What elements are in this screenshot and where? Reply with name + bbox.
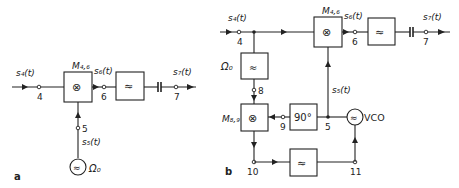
- b-node-4-label: 4: [237, 37, 243, 47]
- b-bandpass-symbol: ≈: [249, 62, 257, 73]
- b-node-7: [424, 30, 428, 34]
- b-mixer1-symbol: ⊗: [322, 26, 331, 39]
- a-node-4-label: 4: [37, 92, 43, 102]
- b-node-8-label: 8: [258, 86, 264, 96]
- b-node-9-label: 9: [280, 122, 286, 132]
- b-vco-to-mixer1-arrow: [325, 61, 331, 67]
- a-node-6: [102, 85, 106, 89]
- a-mixer-output-signal-label: s₆(t): [94, 66, 113, 76]
- b-output-arrow: [438, 29, 445, 35]
- a-mixer-output-arrow: [93, 84, 99, 90]
- b-node-6: [353, 30, 357, 34]
- b-node-4: [237, 30, 241, 34]
- b-main-arrow: [281, 29, 287, 35]
- b-vco-signal-label: s₅(t): [332, 85, 351, 95]
- a-oscillator-freq-label: Ω₀: [88, 163, 101, 174]
- b-bandpass-output-arrow: [251, 95, 257, 101]
- b-node-10-label: 10: [247, 167, 259, 177]
- a-input-signal-label: s₄(t): [16, 68, 35, 78]
- b-output-signal-label: s₇(t): [423, 12, 442, 22]
- diagram-a: s₄(t) 4 ⊗ M₄,₆ s₆(t) 6 ≈ s₇(t) 7 5 s₅(t)…: [12, 61, 196, 182]
- a-node-4: [37, 85, 41, 89]
- a-node-5-label: 5: [82, 124, 88, 134]
- b-vco-control-arrow: [352, 137, 358, 143]
- b-phase-shifter-label: 90°: [294, 112, 312, 123]
- b-input-arrow: [226, 29, 232, 35]
- a-node-7: [174, 85, 178, 89]
- b-vco-label: VCO: [364, 112, 385, 123]
- a-node-7-label: 7: [174, 92, 180, 102]
- a-node-6-label: 6: [101, 92, 107, 102]
- panel-label-b: b: [225, 166, 232, 177]
- b-loop-filter-input-arrow: [272, 159, 278, 165]
- a-output-signal-label: s₇(t): [173, 67, 192, 77]
- b-node-8: [252, 88, 256, 92]
- a-filter-symbol: ≈: [124, 80, 133, 93]
- b-mixer2-symbol: ⊗: [248, 112, 257, 125]
- b-loop-filter-symbol: ≈: [297, 157, 306, 170]
- b-filter-symbol: ≈: [375, 26, 384, 39]
- b-mixer1-label: M₄,₆: [322, 6, 340, 16]
- a-oscillator-signal-label: s₅(t): [82, 137, 101, 147]
- diagram-b: s₄(t) 4 ⊗ M₄,₆ s₆(t) 6 ≈ s₇(t) 7 ≈ Ω₀ 8: [220, 6, 450, 177]
- a-output-arrow: [187, 84, 194, 90]
- b-mixer2-output-arrow: [251, 142, 257, 148]
- a-mixer-symbol: ⊗: [72, 81, 81, 94]
- b-node-5-label: 5: [325, 122, 331, 132]
- b-mixer2-label: M₈,₉: [222, 114, 240, 124]
- diagram-canvas: s₄(t) 4 ⊗ M₄,₆ s₆(t) 6 ≈ s₇(t) 7 5 s₅(t)…: [0, 0, 459, 188]
- b-phase-output-arrow: [269, 114, 275, 120]
- b-bandpass-label: Ω₀: [220, 61, 233, 72]
- b-mixer1-output-signal-label: s₆(t): [344, 11, 363, 21]
- b-input-signal-label: s₄(t): [228, 13, 247, 23]
- a-input-arrow: [22, 84, 28, 90]
- a-mixer-label: M₄,₆: [72, 61, 90, 71]
- b-node-11-label: 11: [350, 167, 361, 177]
- b-vco-symbol: ≈: [350, 113, 358, 123]
- b-mixer1-output-arrow: [343, 29, 349, 35]
- a-oscillator-symbol: ≈: [73, 163, 81, 173]
- a-oscillator-arrow: [75, 112, 81, 118]
- b-node-9: [281, 115, 285, 119]
- a-node-5: [76, 126, 80, 130]
- panel-label-a: a: [14, 171, 21, 182]
- b-node-7-label: 7: [423, 37, 429, 47]
- b-node-6-label: 6: [352, 37, 358, 47]
